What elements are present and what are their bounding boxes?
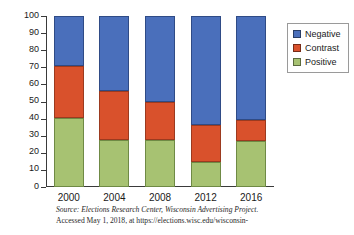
source-note: Source: Elections Research Center, Wisco…	[56, 205, 346, 226]
y-tick-0: 0	[14, 187, 46, 188]
bar-group-2016[interactable]	[236, 16, 266, 187]
legend-swatch-icon	[293, 30, 301, 38]
bars-container	[46, 16, 274, 187]
bar-group-2012[interactable]	[191, 16, 221, 187]
y-tick-label: 40	[29, 112, 39, 123]
y-tick-30: 30	[14, 136, 46, 137]
y-tick-label: 60	[29, 78, 39, 89]
y-tick-100: 100	[14, 16, 46, 17]
bar-group-2008[interactable]	[145, 16, 175, 187]
y-tick-90: 90	[14, 33, 46, 34]
bar-segment-2004-negative[interactable]	[99, 16, 129, 91]
plot-area: Percentage 100 90 80 70 60 50 40 30 20 1…	[46, 16, 274, 187]
bar-segment-2016-positive[interactable]	[236, 141, 266, 187]
tick-mark	[41, 187, 46, 188]
chart-legend: NegativeContrastPositive	[287, 23, 349, 73]
bar-segment-2016-negative[interactable]	[236, 16, 266, 120]
y-tick-60: 60	[14, 84, 46, 85]
legend-label: Negative	[305, 29, 341, 39]
bar-segment-2008-contrast[interactable]	[145, 102, 175, 140]
source-line-2: Accessed May 1, 2018, at https://electio…	[56, 216, 346, 227]
y-tick-label: 0	[34, 181, 39, 192]
bar-segment-2016-contrast[interactable]	[236, 120, 266, 141]
y-tick-label: 10	[29, 163, 39, 174]
bar-segment-2004-contrast[interactable]	[99, 91, 129, 140]
y-tick-label: 100	[24, 10, 39, 21]
x-tick-label-2016: 2016	[224, 192, 278, 203]
y-tick-label: 70	[29, 61, 39, 72]
bar-segment-2000-contrast[interactable]	[54, 66, 84, 117]
y-tick-80: 80	[14, 50, 46, 51]
legend-item-negative[interactable]: Negative	[293, 29, 344, 39]
bar-segment-2012-contrast[interactable]	[191, 125, 221, 162]
y-tick-20: 20	[14, 153, 46, 154]
bar-segment-2008-positive[interactable]	[145, 140, 175, 187]
stacked-bar-chart-figure: Percentage 100 90 80 70 60 50 40 30 20 1…	[0, 0, 354, 235]
y-tick-10: 10	[14, 170, 46, 171]
legend-swatch-icon	[293, 58, 301, 66]
y-tick-70: 70	[14, 67, 46, 68]
bar-segment-2000-negative[interactable]	[54, 16, 84, 66]
y-tick-label: 50	[29, 95, 39, 106]
bar-group-2000[interactable]	[54, 16, 84, 187]
y-tick-50: 50	[14, 102, 46, 103]
bar-segment-2008-negative[interactable]	[145, 16, 175, 102]
bar-segment-2012-negative[interactable]	[191, 16, 221, 125]
legend-swatch-icon	[293, 44, 301, 52]
y-tick-label: 80	[29, 44, 39, 55]
legend-label: Contrast	[305, 43, 339, 53]
y-tick-40: 40	[14, 119, 46, 120]
bar-segment-2012-positive[interactable]	[191, 162, 221, 187]
bar-group-2004[interactable]	[99, 16, 129, 187]
y-tick-label: 30	[29, 129, 39, 140]
y-tick-label: 20	[29, 146, 39, 157]
source-line-1: Source: Elections Research Center, Wisco…	[56, 205, 346, 216]
legend-item-contrast[interactable]: Contrast	[293, 43, 344, 53]
bar-segment-2004-positive[interactable]	[99, 140, 129, 187]
legend-item-positive[interactable]: Positive	[293, 57, 344, 67]
bar-segment-2000-positive[interactable]	[54, 118, 84, 187]
legend-label: Positive	[305, 57, 337, 67]
y-tick-label: 90	[29, 27, 39, 38]
